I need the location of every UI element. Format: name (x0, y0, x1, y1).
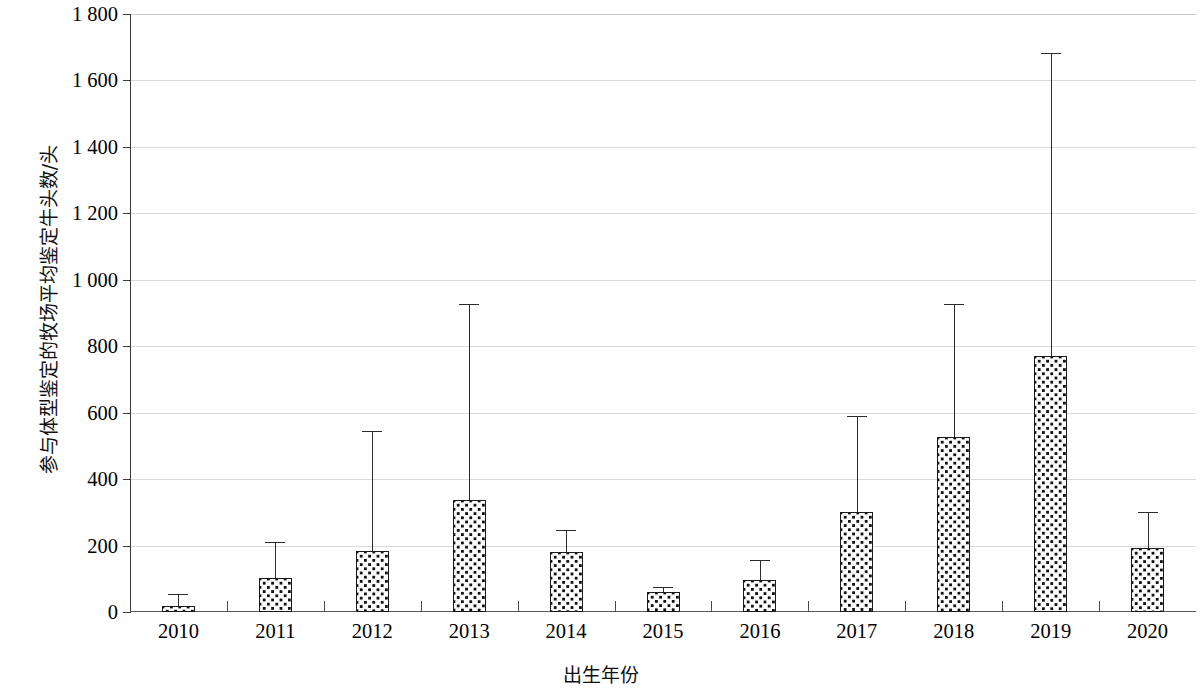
x-axis-label-2012: 2012 (317, 620, 427, 643)
x-axis-tick (615, 601, 616, 612)
y-axis-label: 1 600 (0, 70, 118, 91)
y-axis-label: 1 200 (0, 203, 118, 224)
x-axis-title: 出生年份 (0, 660, 1201, 687)
x-axis-label-2018: 2018 (899, 620, 1009, 643)
bar-2017 (840, 512, 873, 612)
bar-2016 (743, 580, 776, 612)
y-axis-line (130, 14, 131, 612)
y-axis-label: 1 800 (0, 4, 118, 25)
y-axis-tick (123, 14, 131, 15)
x-axis-label-2015: 2015 (608, 620, 718, 643)
error-bar-cap-2011 (265, 542, 285, 543)
y-axis-tick (123, 213, 131, 214)
y-axis-tick (123, 612, 131, 613)
bar-2019 (1034, 356, 1067, 612)
error-bar-stem-2010 (178, 594, 179, 606)
error-bar-cap-2014 (556, 530, 576, 531)
x-axis-label-2013: 2013 (414, 620, 524, 643)
x-axis-tick (1002, 601, 1003, 612)
x-axis-tick (518, 601, 519, 612)
y-axis-label: 1 400 (0, 137, 118, 158)
x-axis-label-2011: 2011 (220, 620, 330, 643)
x-axis-label-2019: 2019 (996, 620, 1106, 643)
error-bar-stem-2020 (1148, 512, 1149, 548)
y-axis-tick (123, 479, 131, 480)
x-axis-tick (421, 601, 422, 612)
y-axis-tick (123, 346, 131, 347)
bar-2013 (453, 500, 486, 612)
error-bar-stem-2019 (1051, 53, 1052, 356)
y-axis-label: 200 (0, 535, 118, 556)
bar-2010 (162, 606, 195, 612)
error-bar-stem-2013 (469, 304, 470, 500)
x-axis-label-2016: 2016 (705, 620, 815, 643)
bar-2018 (937, 437, 970, 612)
x-axis-tick (808, 601, 809, 612)
x-axis-tick (711, 601, 712, 612)
y-axis-tick (123, 280, 131, 281)
error-bar-stem-2011 (275, 542, 276, 579)
bar-2011 (259, 578, 292, 612)
x-axis-label-2020: 2020 (1093, 620, 1201, 643)
error-bar-stem-2018 (954, 304, 955, 437)
gridline (130, 280, 1196, 281)
gridline (130, 80, 1196, 81)
bar-2012 (356, 551, 389, 612)
x-axis-tick (905, 601, 906, 612)
error-bar-stem-2016 (760, 560, 761, 581)
y-axis-label: 1 000 (0, 270, 118, 291)
y-axis-label: 400 (0, 469, 118, 490)
x-axis-label-2014: 2014 (511, 620, 621, 643)
error-bar-cap-2018 (944, 304, 964, 305)
error-bar-cap-2010 (168, 594, 188, 595)
error-bar-cap-2019 (1041, 53, 1061, 54)
gridline (130, 14, 1196, 15)
y-axis-label: 0 (0, 602, 118, 623)
x-axis-tick (227, 601, 228, 612)
error-bar-stem-2017 (857, 416, 858, 512)
y-axis-tick (123, 147, 131, 148)
x-axis-label-2010: 2010 (123, 620, 233, 643)
y-axis-label: 600 (0, 402, 118, 423)
x-axis-tick (1099, 601, 1100, 612)
bar-2020 (1131, 548, 1164, 612)
error-bar-stem-2014 (566, 530, 567, 552)
x-axis-tick (324, 601, 325, 612)
error-bar-cap-2020 (1138, 512, 1158, 513)
error-bar-cap-2017 (847, 416, 867, 417)
error-bar-stem-2012 (372, 431, 373, 551)
gridline (130, 346, 1196, 347)
plot-area (130, 14, 1196, 612)
gridline (130, 213, 1196, 214)
gridline (130, 147, 1196, 148)
error-bar-cap-2016 (750, 560, 770, 561)
error-bar-cap-2013 (459, 304, 479, 305)
y-axis-label: 800 (0, 336, 118, 357)
x-axis-label-2017: 2017 (802, 620, 912, 643)
error-bar-cap-2012 (362, 431, 382, 432)
y-axis-tick (123, 413, 131, 414)
y-axis-tick (123, 80, 131, 81)
bar-2015 (647, 592, 680, 612)
chart-container: 参与体型鉴定的牧场平均鉴定牛头数/头 02004006008001 0001 2… (0, 0, 1201, 698)
error-bar-cap-2015 (653, 587, 673, 588)
bar-2014 (550, 552, 583, 612)
y-axis-tick (123, 546, 131, 547)
